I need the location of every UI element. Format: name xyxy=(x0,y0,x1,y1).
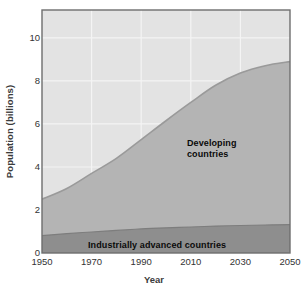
x-tick-2030: 2030 xyxy=(220,256,260,267)
x-axis-title: Year xyxy=(0,274,308,285)
y-tick-4: 4 xyxy=(18,162,40,172)
y-tick-8: 8 xyxy=(18,76,40,86)
y-tick-10: 10 xyxy=(18,33,40,43)
x-tick-1970: 1970 xyxy=(72,256,112,267)
x-axis-tick-labels: 195019701990201020302050 xyxy=(0,256,308,270)
y-axis-tick-labels: 1086420 xyxy=(16,0,40,293)
series-label-industrially-advanced-countries: Industrially advanced countries xyxy=(88,240,226,251)
x-tick-2050: 2050 xyxy=(270,256,308,267)
x-tick-2010: 2010 xyxy=(171,256,211,267)
y-tick-6: 6 xyxy=(18,119,40,129)
x-tick-1950: 1950 xyxy=(22,256,62,267)
x-tick-1990: 1990 xyxy=(121,256,161,267)
series-label-developing-countries: Developing countries xyxy=(187,138,237,160)
y-tick-2: 2 xyxy=(18,205,40,215)
population-area-chart: Population (billions) 1086420 1950197019… xyxy=(0,0,308,293)
